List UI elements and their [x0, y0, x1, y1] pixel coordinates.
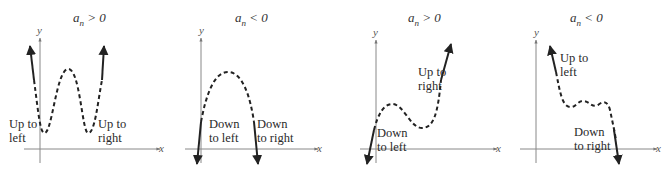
panel-2-y-label: y — [199, 24, 204, 36]
panel-3-left-arrow — [367, 130, 374, 164]
panel-4-y-label: y — [534, 26, 539, 38]
panel-2-label-left: Downto left — [209, 117, 240, 145]
panel-1-y-label: y — [37, 24, 42, 36]
panel-4-x-label: x — [656, 142, 661, 154]
panel-1-right-arrow — [102, 46, 104, 80]
panel-3-title: an > 0 — [408, 10, 441, 28]
panel-2-curve — [201, 72, 254, 122]
panel-1-left-arrow — [30, 46, 34, 80]
panel-2-label-right: Downto right — [257, 117, 293, 145]
panel-4-right-arrow — [614, 130, 619, 164]
panel-4-title: an < 0 — [570, 10, 603, 28]
panel-1-label-left: Up toleft — [9, 117, 37, 145]
panel-3-label-left: Downto left — [377, 126, 408, 154]
panel-1-curve — [34, 69, 102, 133]
panel-2-x-label: x — [317, 142, 322, 154]
panel-1-title: an > 0 — [73, 10, 106, 28]
panel-2-left-arrow — [197, 122, 201, 164]
panel-4-label-right: Downto right — [574, 125, 610, 153]
panel-2-graph — [185, 38, 318, 164]
panel-2-title: an < 0 — [235, 10, 268, 28]
panel-3-label-right: Up toright — [418, 65, 446, 93]
panel-4-left-arrow — [550, 46, 556, 72]
panel-3-y-label: y — [373, 26, 378, 38]
panel-1-graph — [24, 38, 160, 163]
panel-1-label-right: Up toright — [98, 117, 126, 145]
panel-3-x-label: x — [496, 142, 501, 154]
panel-1-x-label: x — [159, 142, 164, 154]
panel-4-label-left: Up toleft — [560, 51, 588, 79]
